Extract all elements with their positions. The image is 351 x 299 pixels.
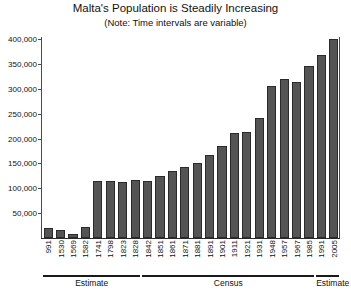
x-axis-tick-label: 1871 (181, 240, 190, 258)
bar (304, 66, 313, 238)
y-axis-tick-label: 400,000 (8, 35, 37, 44)
bar (118, 182, 127, 238)
x-axis-tick-label: 1921 (243, 240, 252, 258)
y-axis-tick-label: 250,000 (8, 109, 37, 118)
x-axis-tick-label: 1530 (57, 240, 66, 258)
bar (180, 167, 189, 238)
x-axis-tick-label: 1798 (106, 240, 115, 258)
bar-series (42, 39, 340, 238)
group-bracket-label: Estimate (316, 278, 339, 288)
x-axis-tick-label: 1957 (280, 240, 289, 258)
group-bracket-label: Estimate (43, 278, 140, 288)
bar (267, 86, 276, 238)
bar (155, 176, 164, 238)
x-axis-tick-label: 1931 (255, 240, 264, 258)
bar (44, 228, 53, 238)
group-bracket-line (142, 275, 314, 277)
x-axis-tick-label: 1569 (69, 240, 78, 258)
bar (168, 171, 177, 238)
x-axis-tick-label: 2005 (330, 240, 339, 258)
x-axis-tick-label: 1881 (193, 240, 202, 258)
x-axis-tick-label: 1911 (230, 240, 239, 257)
group-bracket-line (316, 275, 339, 277)
x-axis-tick-label: 1851 (156, 240, 165, 258)
bar (317, 55, 326, 238)
bar (193, 163, 202, 238)
y-axis-tick-label: 300,000 (8, 84, 37, 93)
bar (280, 79, 289, 238)
plot-area: 50,000100,000150,000200,000250,000300,00… (42, 39, 340, 238)
y-axis-tick-label: 350,000 (8, 59, 37, 68)
group-bracket-label: Census (142, 278, 314, 288)
x-axis-tick-label: 1967 (293, 240, 302, 258)
bar (68, 234, 77, 238)
x-axis-tick-label: 1891 (206, 240, 215, 258)
x-axis-tick-label: 1741 (94, 240, 103, 258)
x-axis-tick-label: 1842 (144, 240, 153, 258)
bar (143, 181, 152, 238)
x-axis-group-brackets: EstimateCensusEstimate (42, 275, 340, 297)
bar (81, 227, 90, 238)
x-axis-tick-label: 1582 (81, 240, 90, 258)
y-axis-tick-label: 50,000 (13, 209, 37, 218)
bar (56, 230, 65, 238)
bar (131, 180, 140, 238)
x-axis-tick-label: 1985 (305, 240, 314, 258)
y-axis-tick-label: 150,000 (8, 159, 37, 168)
bar (205, 155, 214, 238)
y-axis-tick-label: 200,000 (8, 134, 37, 143)
bar (255, 118, 264, 238)
bar (242, 132, 251, 238)
bar (230, 133, 239, 238)
bar (106, 181, 115, 238)
chart-title: Malta's Population is Steadily Increasin… (0, 2, 351, 14)
x-axis-labels: 9911530156915821741179818231828184218511… (42, 240, 340, 272)
bar (217, 146, 226, 238)
bar (329, 39, 338, 238)
x-axis-tick-label: 1901 (218, 240, 227, 258)
x-axis-tick-label: 1828 (131, 240, 140, 258)
bar-chart: Malta's Population is Steadily Increasin… (0, 0, 351, 299)
x-axis-tick-label: 1861 (168, 240, 177, 258)
y-axis-tick-label: 100,000 (8, 184, 37, 193)
bar (93, 181, 102, 238)
x-axis-tick-label: 991 (44, 240, 53, 253)
x-axis-tick-label: 1948 (268, 240, 277, 258)
x-axis-tick-label: 1991 (317, 240, 326, 258)
group-bracket-line (43, 275, 140, 277)
bar (292, 82, 301, 238)
chart-subtitle: (Note: Time intervals are variable) (0, 17, 351, 28)
x-axis-tick-label: 1823 (119, 240, 128, 258)
